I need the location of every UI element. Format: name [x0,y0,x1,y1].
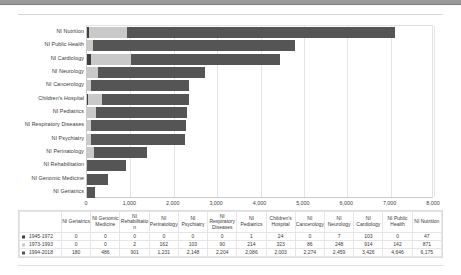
table-body: 1945-1972000000124071030471973-199300216… [20,233,442,257]
table-cell: 2,086 [237,249,266,257]
table-cell: 901 [120,249,149,257]
bar-segment [102,94,189,105]
chart-container: NI NutritionNI Public HealthNI Cardiolog… [0,14,461,275]
axis-tick-label: 4,000 [253,200,267,206]
bar-stack [87,174,434,185]
bar-stack [87,107,434,118]
table-cell: 1,231 [149,249,178,257]
table-cell: 1 [237,233,266,241]
table-cell: 162 [149,241,178,249]
value-axis: 01,0002,0003,0004,0005,0006,0007,0008,00… [86,200,435,210]
legend-swatch-icon [22,243,25,246]
legend-swatch-icon [22,235,25,238]
bar-segment [96,107,186,118]
axis-tick-label: 1,000 [123,200,137,206]
legend-label: 1973-1993 [29,241,53,247]
category-label: NI Psychiatry [0,135,84,142]
axis-tick-label: 7,000 [383,200,397,206]
table-column-header: Children's Hospital [266,212,295,233]
table-cell: 323 [266,241,295,249]
bar-stack [87,147,434,158]
bar-segment [91,80,190,91]
category-label: NI Genomic Medicine [0,175,84,182]
table-cell: 2,459 [324,249,353,257]
data-table: NI GeriatricsNI Genomic MedicineNI Rehab… [18,210,443,258]
legend-label: 1994-2018 [29,249,53,255]
table-cell: 103 [178,241,207,249]
table-cell: 180 [62,249,91,257]
category-axis: NI NutritionNI Public HealthNI Cardiolog… [0,25,84,198]
category-label: NI Cancerology [0,81,84,88]
table-cell: 248 [324,241,353,249]
bar-segment [88,94,102,105]
table-cell: 914 [354,241,383,249]
legend-entry[interactable]: 1973-1993 [20,241,62,249]
bar-segment [87,174,108,185]
category-label: NI Nutrition [0,28,84,35]
table-cell: 2,148 [178,249,207,257]
table-row: 1973-19930021621039021432386248914142871 [20,241,442,249]
bar-segment [87,160,126,171]
table-column-header: NI Psychiatry [178,212,207,233]
table-column-header: NI Pediatrics [237,212,266,233]
table-cell: 7 [324,233,353,241]
table-cell: 142 [383,241,412,249]
table-column-header: NI Public Health [383,212,412,233]
table-column-header: NI Geriatrics [62,212,91,233]
bar-stack [87,94,434,105]
bar-segment [91,54,131,65]
category-label: NI Pediatrics [0,108,84,115]
bar-segment [91,134,184,145]
bar-segment [87,107,96,118]
legend-entry[interactable]: 1994-2018 [20,249,62,257]
category-label: NI Perinatology [0,148,84,155]
bar-stack [87,80,434,91]
gridline [434,26,435,197]
legend-swatch-icon [22,251,25,254]
bar-stack [87,120,434,131]
table-column-header: NI Rehabilitatio n [120,212,149,233]
category-label: NI Geriatrics [0,188,84,195]
table-row: 1945-197200000012407103047 [20,233,442,241]
table-cell: 0 [178,233,207,241]
table-cell: 2,204 [208,249,237,257]
axis-tick-label: 0 [85,200,88,206]
axis-tick-label: 3,000 [209,200,223,206]
table-cell: 90 [208,241,237,249]
table-cell: 0 [62,233,91,241]
table-cell: 2,003 [266,249,295,257]
bar-segment [93,40,295,51]
table-cell: 871 [412,241,441,249]
table-column-header: NI Respiratory Diseases [208,212,237,233]
table-column-header: NI Cancerology [295,212,324,233]
bar-segment [127,27,395,38]
bar-stack [87,160,434,171]
table-cell: 214 [237,241,266,249]
table-column-header: NI Cardiology [354,212,383,233]
axis-tick-label: 8,000 [426,200,440,206]
axis-tick-label: 6,000 [340,200,354,206]
category-label: Children's Hospital [0,95,84,102]
bar-stack [87,54,434,65]
table-cell: 0 [91,233,120,241]
chart-data-table: NI GeriatricsNI Genomic MedicineNI Rehab… [19,211,442,257]
category-label: NI Neurology [0,68,84,75]
bar-stack [87,134,434,145]
top-divider [18,14,443,15]
table-cell: 0 [295,233,324,241]
table-cell: 0 [91,241,120,249]
table-cell: 486 [91,249,120,257]
table-cell: 2 [120,241,149,249]
legend-entry[interactable]: 1945-1972 [20,233,62,241]
bar-segment [91,120,187,131]
table-header-row: NI GeriatricsNI Genomic MedicineNI Rehab… [20,212,442,233]
table-cell: 3,426 [354,249,383,257]
category-label: NI Respiratory Diseases [0,121,84,128]
table-cell: 86 [295,241,324,249]
bar-segment [94,147,147,158]
bar-segment [87,147,94,158]
category-label: NI Rehabilitation [0,161,84,168]
axis-tick-label: 5,000 [296,200,310,206]
bar-segment [87,187,95,198]
table-cell: 0 [62,241,91,249]
